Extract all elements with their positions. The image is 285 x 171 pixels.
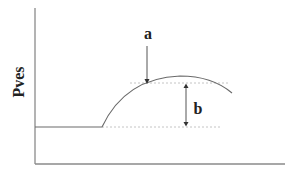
- arrow-b-head-top: [184, 84, 189, 89]
- pressure-diagram: Pves a b: [0, 0, 285, 171]
- label-b: b: [194, 100, 203, 117]
- label-a: a: [144, 25, 152, 42]
- arrow-b-head-bottom: [184, 122, 189, 127]
- y-axis-label: Pves: [10, 66, 27, 97]
